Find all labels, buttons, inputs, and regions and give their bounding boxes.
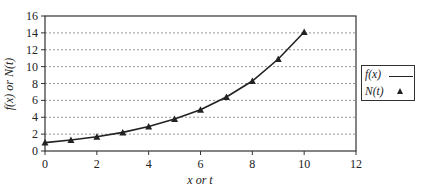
x-tick-label: 12: [350, 157, 362, 171]
triangle-marker-icon: [397, 88, 403, 94]
x-tick-label: 0: [42, 157, 48, 171]
y-tick-label: 0: [32, 144, 38, 158]
y-tick-label: 2: [32, 127, 38, 141]
gridlines: [45, 33, 356, 134]
line-swatch-icon: [389, 76, 413, 77]
y-tick-label: 6: [32, 93, 38, 107]
x-tick-label: 6: [198, 157, 204, 171]
y-tick-label: 4: [32, 110, 38, 124]
series-f-x-line: [45, 32, 304, 143]
y-tick-label: 10: [26, 60, 38, 74]
x-tick-label: 4: [146, 157, 152, 171]
y-tick-label: 8: [32, 77, 38, 91]
legend: f(x) N(t): [361, 65, 415, 101]
y-axis-title: f(x) or N(t): [2, 58, 16, 111]
legend-label: f(x): [365, 68, 381, 80]
legend-item-f-x: f(x): [365, 68, 381, 80]
triangle-marker-icon: [223, 94, 230, 101]
y-tick-label: 12: [26, 43, 38, 57]
x-axis-title: x or t: [186, 173, 213, 187]
triangle-marker-icon: [197, 106, 204, 113]
x-tick-label: 8: [249, 157, 255, 171]
x-tick-label: 10: [298, 157, 310, 171]
x-tick-labels: 024681012: [42, 157, 362, 171]
x-tick-label: 2: [94, 157, 100, 171]
series-n-t-markers: [42, 29, 308, 146]
y-tick-label: 14: [26, 26, 38, 40]
legend-item-n-t: N(t): [365, 85, 384, 97]
triangle-marker-icon: [301, 29, 308, 36]
legend-label: N(t): [365, 85, 384, 97]
y-tick-label: 16: [26, 9, 38, 23]
y-tick-labels: 0246810121416: [26, 9, 38, 158]
